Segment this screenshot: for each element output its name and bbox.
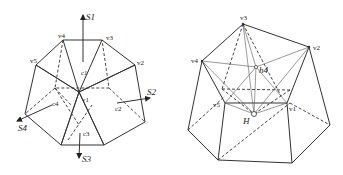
label-r-v3: v3 [240,14,248,22]
label-c2: c2 [115,105,122,113]
label-v3: v3 [106,34,114,42]
label-v2: v2 [137,59,145,67]
label-v4: v4 [58,32,66,40]
label-r-v5: v5 [213,101,221,109]
label-s1: S1 [86,12,95,22]
label-c3: c3 [83,130,90,138]
label-h4: h4 [259,65,269,75]
right-polyhedron [188,23,330,163]
label-s4: S4 [18,123,28,133]
label-c4: c4 [52,100,59,108]
label-s2: S2 [147,87,157,97]
diagram-canvas: v4 v3 v2 v5 v1 c1 c2 c3 c4 S1 S2 S3 S4 [0,0,343,175]
point-H [252,112,257,117]
label-r-v2: v2 [313,44,321,52]
label-c1: c1 [81,69,88,77]
s4-arrow [17,105,52,121]
label-v5: v5 [30,57,38,65]
point-h4 [254,65,257,68]
label-r-v1: v1 [289,105,297,113]
label-H: H [242,116,250,126]
label-r-v4: v4 [191,57,199,65]
label-v1: v1 [82,96,90,104]
label-s3: S3 [82,154,92,164]
face-c1 [36,40,135,92]
s3-arrow [79,133,80,158]
top-pentagon-face [202,24,309,103]
